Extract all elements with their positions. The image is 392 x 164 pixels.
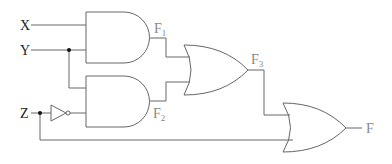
or-gate-1: [184, 45, 248, 95]
wire-y: [31, 50, 86, 88]
output-label-f3: F3: [251, 52, 264, 69]
or-gate-2: [283, 103, 346, 152]
junction-z: [38, 111, 42, 115]
and-gate-1: [86, 12, 150, 63]
input-label-y: Y: [20, 43, 30, 58]
wire-f1: [150, 38, 190, 57]
junction-y: [67, 48, 71, 52]
input-label-x: X: [20, 18, 30, 33]
output-label-f2: F2: [153, 106, 165, 123]
not-gate: [51, 105, 86, 121]
output-label-f1: F1: [154, 21, 166, 38]
wire-f2: [150, 82, 190, 101]
and-gate-2: [86, 76, 150, 127]
wire-f3: [248, 70, 290, 115]
logic-circuit-diagram: X Y Z: [0, 0, 392, 164]
input-label-z: Z: [20, 106, 29, 121]
output-label-f: F: [366, 121, 374, 136]
